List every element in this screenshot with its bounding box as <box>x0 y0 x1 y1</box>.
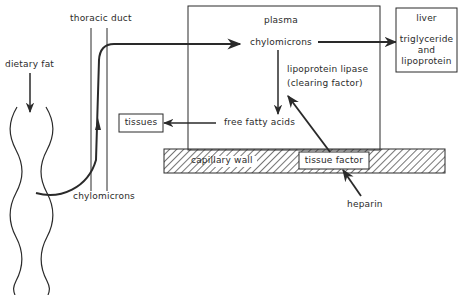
liver-title: liver <box>396 13 457 24</box>
lipoprotein-lipase-label: lipoprotein lipase <box>287 64 368 75</box>
heparin-arrow <box>343 170 361 196</box>
heparin-label: heparin <box>347 199 383 210</box>
plasma-label: plasma <box>264 15 298 26</box>
tissue-factor-label: tissue factor <box>299 155 369 166</box>
lipid-transport-diagram: dietary fat thoracic duct chylomicrons p… <box>0 0 462 295</box>
intestine-walls <box>10 107 53 295</box>
capillary-wall-label: capillary wall <box>191 155 253 166</box>
thoracic-duct-label: thoracic duct <box>70 13 132 24</box>
liver-line-3: lipoprotein <box>396 56 457 67</box>
dietary-fat-label: dietary fat <box>5 59 54 70</box>
clearing-factor-label: (clearing factor) <box>287 78 363 89</box>
liver-line-2: and <box>396 45 457 56</box>
free-fatty-acids-label: free fatty acids <box>224 117 295 128</box>
liver-line-1: triglyceride <box>396 34 457 45</box>
tissues-label: tissues <box>119 117 163 128</box>
chylomicrons-bottom-label: chylomicrons <box>73 191 135 202</box>
diagram-lines <box>0 0 462 295</box>
chylomicrons-plasma-label: chylomicrons <box>250 37 312 48</box>
